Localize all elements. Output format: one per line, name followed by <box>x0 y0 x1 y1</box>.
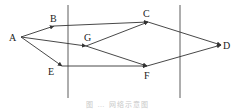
node-g-label: G <box>84 32 91 43</box>
edge-g-f <box>86 46 147 66</box>
edge-c-d <box>148 22 221 45</box>
edges <box>21 22 221 66</box>
node-a-label: A <box>9 32 17 43</box>
node-e-label: E <box>48 66 54 77</box>
nodes: ABCGEFD <box>9 8 230 81</box>
edge-f-d <box>147 45 221 66</box>
node-d-label: D <box>223 40 230 51</box>
network-diagram: ABCGEFD <box>0 0 235 111</box>
figure-caption: 图 … 网络示意图 <box>0 99 235 109</box>
node-b-label: B <box>50 13 57 24</box>
edge-a-b <box>21 26 54 37</box>
edge-a-g <box>21 37 86 46</box>
edge-g-c <box>86 22 148 46</box>
edge-a-e <box>21 37 62 66</box>
node-c-label: C <box>143 8 150 19</box>
stage-dividers <box>68 5 180 98</box>
node-f-label: F <box>144 70 150 81</box>
